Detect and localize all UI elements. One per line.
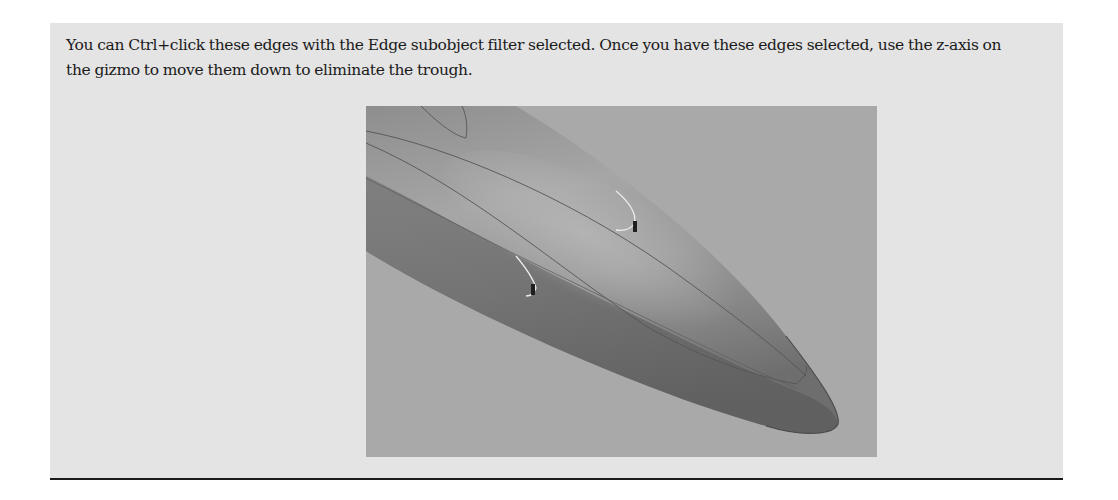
tip-callout-box: You can Ctrl+click these edges with the …: [50, 23, 1063, 480]
nose-surface-render: [366, 106, 877, 457]
callout-paragraph: You can Ctrl+click these edges with the …: [66, 33, 1026, 83]
viewport-figure: [366, 106, 877, 457]
gizmo-handle-1[interactable]: [633, 221, 637, 232]
gizmo-handle-2[interactable]: [531, 284, 535, 295]
